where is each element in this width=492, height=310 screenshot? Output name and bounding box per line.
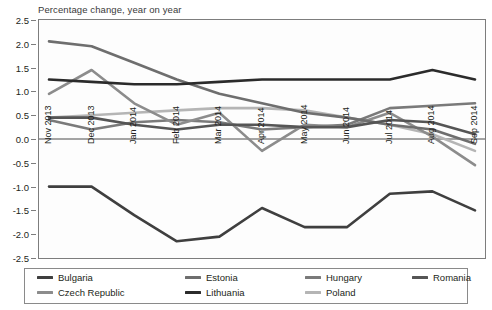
y-axis-tick-mark — [31, 210, 36, 211]
legend-item-label: Estonia — [206, 272, 238, 283]
y-axis-tick-mark — [31, 139, 36, 140]
legend-item-bulgaria[interactable]: Bulgaria — [37, 272, 93, 283]
legend-swatch-icon — [412, 276, 428, 280]
y-axis-tick-mark — [31, 234, 36, 235]
legend-swatch-icon — [37, 291, 53, 295]
legend-swatch-icon — [37, 276, 53, 280]
y-axis-tick-label: 2.0 — [16, 38, 29, 49]
plot-area — [38, 19, 486, 259]
series-line-bulgaria — [49, 187, 475, 242]
legend-item-label: Hungary — [326, 272, 362, 283]
y-axis-tick-label: -1.5 — [13, 205, 29, 216]
chart-title: Percentage change, year on year — [38, 4, 182, 15]
legend-swatch-icon — [305, 276, 321, 280]
y-axis-tick-mark — [31, 163, 36, 164]
legend-item-poland[interactable]: Poland — [305, 287, 356, 298]
legend-swatch-icon — [185, 291, 201, 295]
y-axis-tick-label: 1.5 — [16, 62, 29, 73]
legend: BulgariaEstoniaHungaryRomaniaCzech Repub… — [24, 268, 468, 304]
legend-item-romania[interactable]: Romania — [412, 272, 471, 283]
y-axis-tick-label: -2.0 — [13, 229, 29, 240]
y-axis-tick-mark — [31, 258, 36, 259]
legend-item-label: Lithuania — [206, 287, 245, 298]
legend-item-label: Romania — [433, 272, 471, 283]
y-axis-tick-label: 1.0 — [16, 86, 29, 97]
y-axis-tick-mark — [31, 20, 36, 21]
y-axis-tick-label: 0.0 — [16, 134, 29, 145]
y-axis-tick-label: -1.0 — [13, 181, 29, 192]
legend-item-hungary[interactable]: Hungary — [305, 272, 362, 283]
y-axis-tick-label: 2.5 — [16, 15, 29, 26]
legend-item-czech-republic[interactable]: Czech Republic — [37, 287, 125, 298]
series-line-lithuania — [49, 70, 475, 84]
legend-item-estonia[interactable]: Estonia — [185, 272, 238, 283]
y-axis-tick-label: -2.5 — [13, 253, 29, 264]
y-axis-tick-mark — [31, 91, 36, 92]
y-axis-tick-mark — [31, 115, 36, 116]
series-lines — [39, 20, 485, 258]
y-axis-tick-label: -0.5 — [13, 157, 29, 168]
y-axis-tick-mark — [31, 68, 36, 69]
legend-item-label: Czech Republic — [58, 287, 125, 298]
legend-swatch-icon — [305, 291, 321, 295]
y-axis-tick-mark — [31, 187, 36, 188]
legend-swatch-icon — [185, 276, 201, 280]
y-axis-tick-mark — [31, 44, 36, 45]
y-axis-tick-label: 0.5 — [16, 110, 29, 121]
legend-item-lithuania[interactable]: Lithuania — [185, 287, 245, 298]
y-axis: 2.52.01.51.00.50.0-0.5-1.0-1.5-2.0-2.5 — [0, 19, 36, 259]
legend-item-label: Bulgaria — [58, 272, 93, 283]
chart-container: Percentage change, year on year 2.52.01.… — [0, 0, 492, 310]
legend-item-label: Poland — [326, 287, 356, 298]
